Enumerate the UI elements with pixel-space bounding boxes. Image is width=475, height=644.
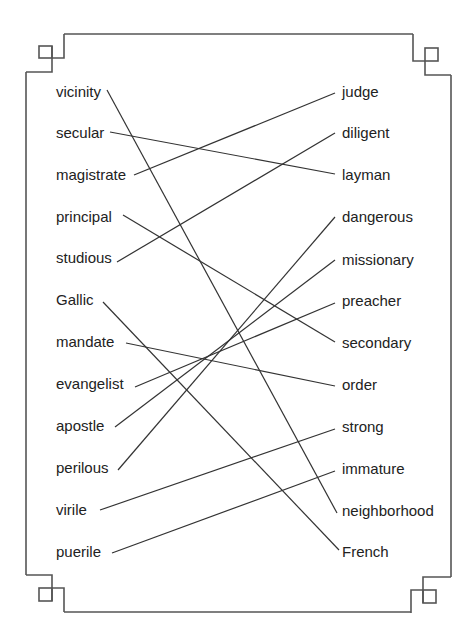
corner-knot-bottom-right [411,577,451,613]
match-lines [100,90,339,553]
match-line-mandate-order [126,343,335,386]
right-word-strong: strong [342,418,384,436]
match-line-studious-diligent [117,133,335,262]
match-line-puerile-immature [112,471,335,553]
left-word-mandate: mandate [56,333,114,351]
right-word-neighborhood: neighborhood [342,502,434,520]
right-word-diligent: diligent [342,124,390,142]
left-word-vicinity: vicinity [56,83,101,101]
matching-worksheet: vicinity secular magistrate principal st… [0,0,475,644]
left-word-apostle: apostle [56,417,104,435]
corner-knot-top-right [413,34,451,75]
left-word-evangelist: evangelist [56,375,124,393]
left-word-magistrate: magistrate [56,166,126,184]
corner-knot-bottom-left [26,575,64,612]
left-word-perilous: perilous [56,459,109,477]
right-word-secondary: secondary [342,334,411,352]
match-line-apostle-missionary [115,260,335,427]
match-line-principal-secondary [123,215,335,342]
right-word-layman: layman [342,166,390,184]
match-line-magistrate-judge [134,93,335,175]
left-word-gallic: Gallic [56,291,94,309]
right-word-preacher: preacher [342,292,401,310]
left-word-virile: virile [56,501,87,519]
right-word-missionary: missionary [342,251,414,269]
match-line-evangelist-preacher [135,303,335,387]
right-word-order: order [342,376,377,394]
match-line-virile-strong [100,429,335,510]
left-word-puerile: puerile [56,543,101,561]
right-word-immature: immature [342,460,405,478]
corner-knot-top-left [26,34,64,72]
right-word-dangerous: dangerous [342,208,413,226]
left-word-secular: secular [56,124,104,142]
left-word-principal: principal [56,208,112,226]
left-word-studious: studious [56,249,112,267]
right-word-french: French [342,543,389,561]
right-word-judge: judge [342,83,379,101]
